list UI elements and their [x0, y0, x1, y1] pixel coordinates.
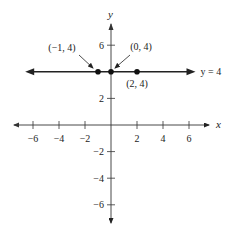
point-label: (−1, 4) [48, 42, 75, 54]
y-axis-label: y [107, 8, 113, 20]
axes [13, 23, 209, 223]
x-axis-label: x [215, 118, 221, 130]
y-tick-label: −4 [93, 173, 104, 184]
line-right-arrow-icon [187, 68, 196, 75]
y-tick-label: 6 [99, 40, 104, 51]
y-tick-label: −6 [93, 199, 104, 210]
x-tick-label: −4 [54, 133, 65, 144]
x-tick-label: 6 [187, 133, 192, 144]
leader-arrow-icon [115, 55, 130, 68]
line-label-y-equals-4: y = 4 [201, 66, 222, 77]
leader-arrow-icon [79, 55, 93, 68]
data-point [108, 69, 114, 75]
data-point [134, 69, 140, 75]
y-tick-label: −2 [93, 146, 104, 157]
line-left-arrow-icon [25, 68, 34, 75]
x-axis-left-arrow-icon [13, 123, 19, 128]
y-tick-label: 2 [99, 93, 104, 104]
x-tick-label: 2 [135, 133, 140, 144]
point-label: (2, 4) [126, 78, 148, 90]
y-axis-up-arrow-icon [109, 23, 114, 30]
coordinate-plane: xy−6−4−2246−6−4−226y = 4(−1, 4)(0, 4)(2,… [0, 0, 233, 229]
x-tick-label: −2 [80, 133, 91, 144]
point-label: (0, 4) [130, 41, 152, 53]
chart-labels: xy−6−4−2246−6−4−226y = 4(−1, 4)(0, 4)(2,… [28, 8, 221, 210]
data-point [95, 69, 101, 75]
x-tick-label: −6 [28, 133, 39, 144]
x-tick-label: 4 [161, 133, 166, 144]
